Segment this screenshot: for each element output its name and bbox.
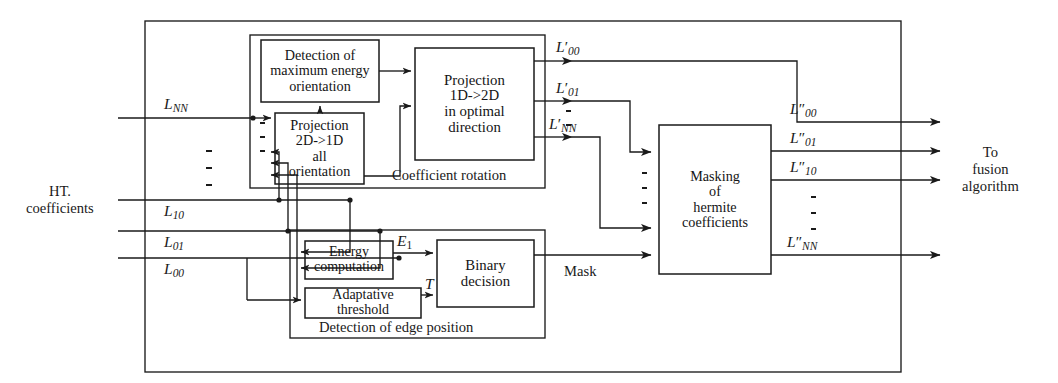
signal-sub: NN: [561, 122, 576, 134]
block-projection-1d-to-2d[interactable]: Projection 1D->2D in optimal direction: [415, 48, 534, 160]
block-line: 2D->1D: [289, 133, 350, 148]
caption-coefficient-rotation: Coefficient rotation: [392, 167, 506, 184]
block-diagram-canvas: Detection of maximum energy orientation …: [0, 0, 1058, 383]
block-line: 1D->2D: [444, 88, 505, 104]
signal-base: L: [549, 115, 558, 132]
destination-label: To fusion algorithm: [962, 144, 1019, 195]
signal-label-Lprime-NN: L′NN: [549, 115, 576, 134]
masked-output-ellipsis-dots: [810, 196, 817, 230]
block-energy-computation[interactable]: Energy computation: [303, 241, 395, 279]
ht-label-line2: coefficients: [26, 200, 94, 216]
signal-sub: 00: [805, 107, 816, 119]
destination-line2: fusion: [972, 161, 1008, 177]
block-line: Binary: [461, 258, 510, 274]
block-adaptative-threshold[interactable]: Adaptative threshold: [305, 287, 421, 319]
masking-input-ellipsis-dots: [641, 172, 648, 204]
signal-sub: 10: [173, 209, 184, 221]
block-line: coefficients: [682, 215, 748, 230]
projection-input-ellipsis-dots: [259, 122, 266, 152]
signal-sub: NN: [802, 240, 817, 252]
signal-base: L: [790, 129, 799, 146]
block-line: Projection: [444, 73, 505, 89]
block-line: decision: [461, 274, 510, 290]
signal-sub: 00: [568, 45, 579, 57]
signal-sub: 00: [173, 267, 184, 279]
block-line: orientation: [289, 164, 350, 179]
ht-coefficients-label: HT. coefficients: [26, 183, 94, 217]
signal-label-T: T: [425, 275, 434, 293]
signal-base: L: [164, 95, 173, 112]
signal-sub: 1: [406, 239, 412, 251]
signal-base: L: [164, 202, 173, 219]
block-line: Adaptative: [332, 288, 393, 303]
signal-sub: 10: [805, 165, 816, 177]
input-ellipsis-dots: [205, 150, 213, 186]
destination-line3: algorithm: [962, 178, 1019, 194]
block-line: threshold: [332, 303, 393, 318]
signal-label-L-NN: LNN: [164, 95, 188, 114]
signal-base: L: [787, 233, 796, 250]
block-line: all: [289, 149, 350, 164]
block-line: orientation: [270, 79, 369, 94]
signal-base: L: [790, 100, 799, 117]
signal-label-Ldprime-01: L″01: [790, 129, 817, 148]
caption-edge-detection: Detection of edge position: [319, 319, 473, 336]
block-detection-max-energy[interactable]: Detection of maximum energy orientation: [261, 40, 379, 102]
signal-label-mask: Mask: [564, 263, 596, 280]
signal-base: L: [556, 38, 565, 55]
signal-label-E1: E1: [397, 232, 412, 251]
block-line: in optimal: [444, 104, 505, 120]
signal-base: L: [556, 79, 565, 96]
signal-label-Ldprime-NN: L″NN: [787, 233, 817, 252]
block-projection-2d-to-1d[interactable]: Projection 2D->1D all orientation: [275, 113, 364, 184]
signal-sub: 01: [568, 86, 579, 98]
block-line: direction: [444, 120, 505, 136]
block-line: computation: [314, 260, 384, 275]
signal-sub: 01: [805, 136, 816, 148]
block-line: Projection: [289, 118, 350, 133]
signal-base: L: [790, 158, 799, 175]
block-line: of: [682, 184, 748, 199]
block-line: maximum energy: [270, 63, 369, 78]
block-line: hermite: [682, 200, 748, 215]
signal-label-L-01: L01: [164, 233, 184, 252]
signal-base: L: [164, 233, 173, 250]
block-binary-decision[interactable]: Binary decision: [437, 240, 534, 307]
block-masking-hermite-coefficients[interactable]: Masking of hermite coefficients: [659, 125, 771, 274]
block-line: Masking: [682, 169, 748, 184]
destination-line1: To: [983, 144, 998, 160]
signal-label-L-00: L00: [164, 260, 184, 279]
ht-label-line1: HT.: [49, 183, 71, 199]
block-line: Detection of: [270, 48, 369, 63]
signal-label-Lprime-00: L′00: [556, 38, 579, 57]
signal-label-Ldprime-10: L″10: [790, 158, 817, 177]
signal-label-L-10: L10: [164, 202, 184, 221]
signal-sub: NN: [173, 102, 188, 114]
signal-base: L: [164, 260, 173, 277]
block-line: Energy: [314, 245, 384, 260]
signal-label-Lprime-01: L′01: [556, 79, 579, 98]
signal-sub: 01: [173, 240, 184, 252]
signal-label-Ldprime-00: L″00: [790, 100, 817, 119]
